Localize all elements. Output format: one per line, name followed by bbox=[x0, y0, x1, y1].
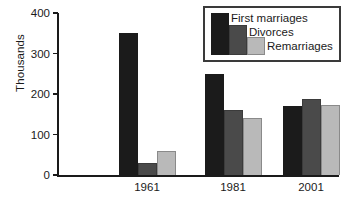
y-tick-label: 0 bbox=[44, 169, 50, 181]
bar bbox=[119, 33, 138, 175]
bar bbox=[321, 105, 340, 175]
bar bbox=[138, 163, 157, 175]
legend: First marriagesDivorcesRemarriages bbox=[203, 6, 341, 62]
y-tick-label: 100 bbox=[31, 129, 50, 141]
legend-inner: First marriagesDivorcesRemarriages bbox=[205, 8, 339, 60]
bar-group bbox=[119, 33, 176, 175]
x-tick-label: 1981 bbox=[220, 181, 246, 193]
y-tick-label: 300 bbox=[31, 48, 50, 60]
bar bbox=[205, 74, 224, 175]
bar bbox=[243, 118, 262, 175]
y-tick-mark bbox=[53, 53, 58, 54]
legend-label: Remarriages bbox=[267, 40, 333, 52]
bar bbox=[283, 106, 302, 175]
legend-swatch bbox=[247, 37, 265, 55]
legend-swatch bbox=[229, 25, 247, 55]
x-tick-label: 2001 bbox=[298, 181, 324, 193]
y-axis-title: Thousands bbox=[14, 13, 30, 113]
bar bbox=[302, 99, 321, 175]
y-tick-mark bbox=[53, 174, 58, 175]
bar bbox=[224, 110, 243, 175]
bar bbox=[157, 151, 176, 175]
legend-label: First marriages bbox=[231, 12, 308, 24]
y-tick-mark bbox=[53, 93, 58, 94]
y-tick-label: 400 bbox=[31, 7, 50, 19]
x-axis-line bbox=[57, 175, 339, 177]
y-tick-mark bbox=[53, 134, 58, 135]
y-tick-mark bbox=[53, 12, 58, 13]
y-tick-label: 200 bbox=[31, 88, 50, 100]
bar-group bbox=[205, 74, 262, 175]
bar-chart: Thousands 0100200300400 196119812001 Fir… bbox=[0, 0, 347, 205]
legend-swatch bbox=[211, 13, 229, 55]
x-tick-label: 1961 bbox=[134, 181, 160, 193]
bar-group bbox=[283, 99, 340, 175]
